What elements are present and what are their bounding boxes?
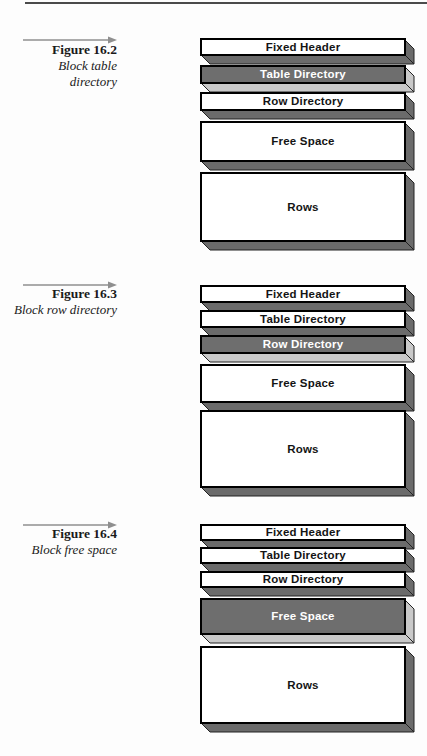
block-row-directory: Row Directory (200, 92, 415, 124)
block-label: Free Space (200, 121, 406, 161)
figure-caption-line: Block table (7, 58, 117, 74)
block-rows: Rows (200, 646, 415, 737)
block-label: Free Space (200, 598, 406, 634)
block-label: Row Directory (200, 571, 406, 587)
block-free-space: Free Space (200, 121, 415, 175)
figure-caption-16-3: Figure 16.3 Block row directory (7, 286, 117, 318)
block-rows: Rows (200, 410, 415, 501)
block-label: Rows (200, 172, 406, 241)
figure-number: Figure 16.2 (7, 42, 117, 58)
block-row-directory: Row Directory (200, 335, 415, 367)
block-label: Row Directory (200, 92, 406, 110)
block-label: Free Space (200, 364, 406, 402)
block-label: Table Directory (200, 310, 406, 327)
block-label: Table Directory (200, 65, 406, 83)
block-label: Fixed Header (200, 285, 406, 302)
figure-caption-line: Block free space (7, 542, 117, 558)
figure-caption-16-2: Figure 16.2 Block table directory (7, 42, 117, 90)
figure-caption-line: directory (7, 74, 117, 90)
figure-caption-16-4: Figure 16.4 Block free space (7, 526, 117, 558)
block-label: Rows (200, 410, 406, 487)
block-free-space: Free Space (200, 598, 415, 648)
block-label: Fixed Header (200, 524, 406, 540)
block-label: Fixed Header (200, 38, 406, 55)
figure-number: Figure 16.3 (7, 286, 117, 302)
block-label: Table Directory (200, 547, 406, 563)
figure-number: Figure 16.4 (7, 526, 117, 542)
block-free-space: Free Space (200, 364, 415, 416)
block-label: Row Directory (200, 335, 406, 353)
block-row-directory: Row Directory (200, 571, 415, 601)
page-top-rule (25, 2, 427, 4)
block-label: Rows (200, 646, 406, 723)
figure-caption-line: Block row directory (7, 302, 117, 318)
book-page: Figure 16.2 Block table directory Fixed … (0, 0, 427, 756)
block-rows: Rows (200, 172, 415, 255)
